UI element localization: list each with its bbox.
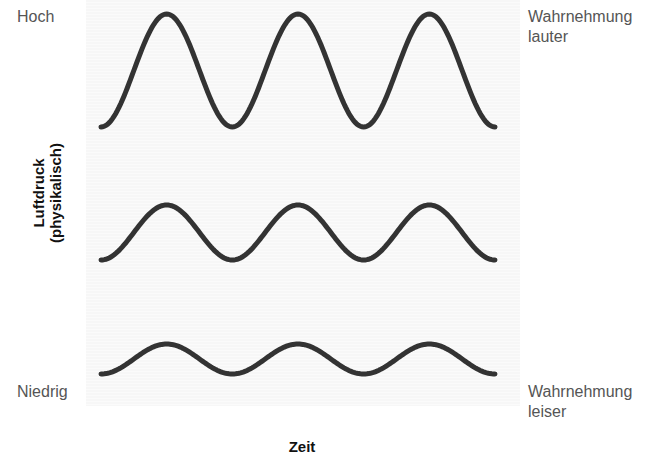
label-perception-louder-line2: lauter <box>528 27 632 47</box>
y-axis-label-line1: Luftdruck <box>30 143 47 243</box>
y-axis-label-line2: (physikalisch) <box>47 143 64 243</box>
label-low: Niedrig <box>17 382 68 402</box>
x-axis-label: Zeit <box>289 438 316 455</box>
label-perception-quieter-line2: leiser <box>528 402 632 422</box>
y-axis-label: Luftdruck (physikalisch) <box>30 143 64 243</box>
wave-loud <box>101 14 495 127</box>
label-perception-louder-line1: Wahrnehmung <box>528 7 632 27</box>
wave-quiet <box>101 344 495 374</box>
wave-medium <box>101 205 495 260</box>
label-perception-quieter-line1: Wahrnehmung <box>528 382 632 402</box>
label-perception-quieter: Wahrnehmung leiser <box>528 382 632 422</box>
label-high: Hoch <box>17 7 54 27</box>
label-perception-louder: Wahrnehmung lauter <box>528 7 632 47</box>
